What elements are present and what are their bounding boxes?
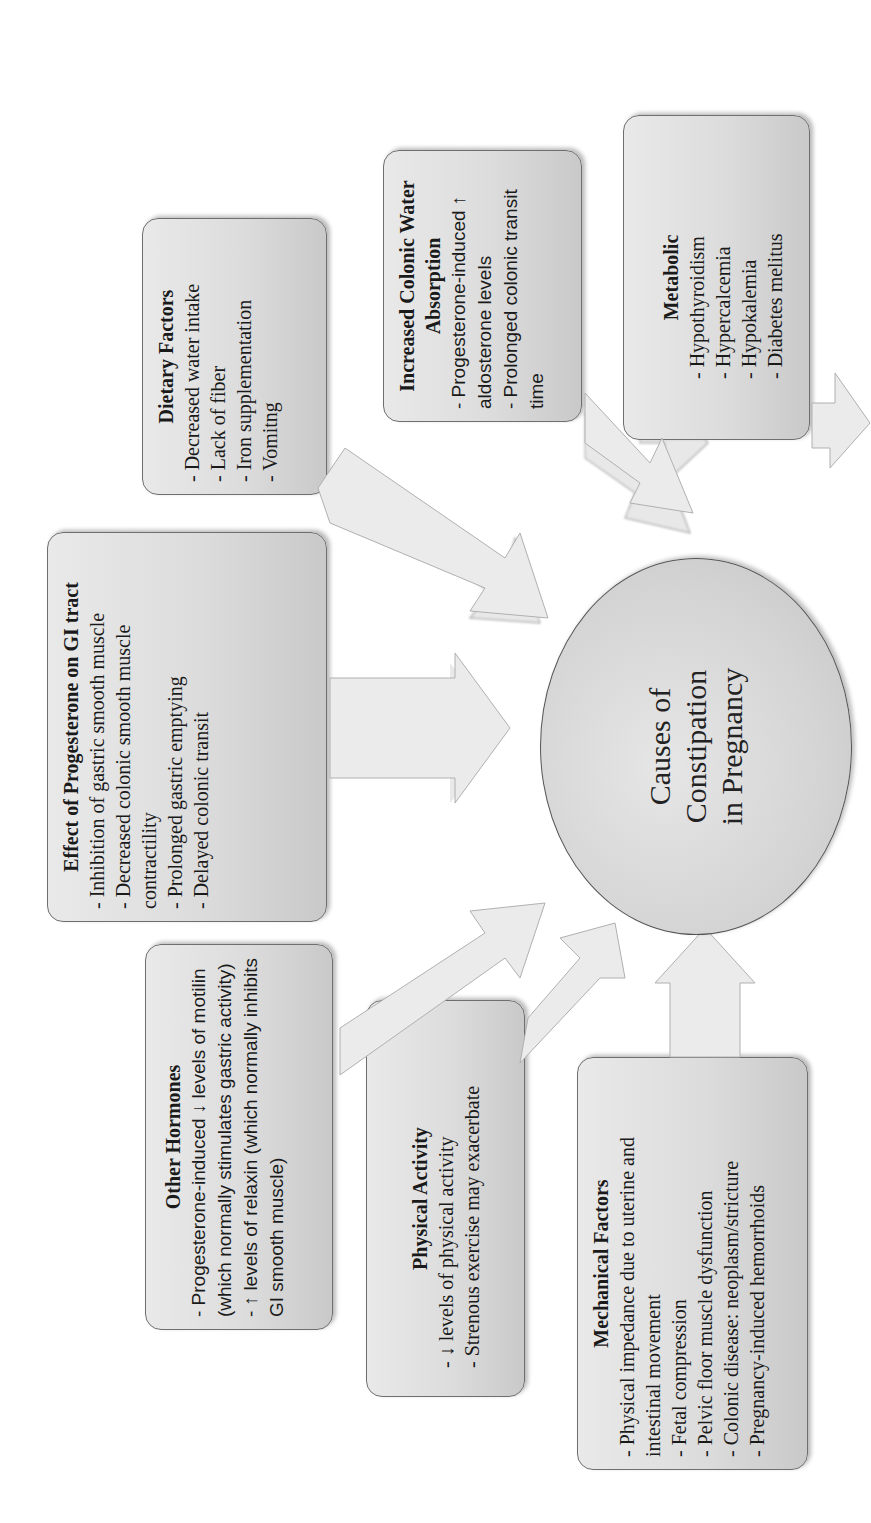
list-item: - Prolonged colonic transit time — [498, 163, 550, 409]
box-title: Effect of Progesterone on GI tract — [58, 545, 84, 909]
box-metabolic: Metabolic - Hypothyroidism - Hypercalcem… — [623, 115, 810, 440]
list-item: - Hypercalcemia — [710, 128, 736, 379]
list-item: - Colonic disease: neoplasm/stricture — [718, 1070, 744, 1457]
list-item: - Fetal compression — [666, 1070, 692, 1457]
box-title: Physical Activity — [407, 1013, 433, 1384]
center-line: Constipation — [678, 668, 714, 825]
list-item: - Delayed colonic transit — [188, 545, 214, 909]
list-item: - Vomitng — [257, 231, 283, 482]
diagram-canvas: Effect of Progesterone on GI tract - Inh… — [0, 0, 871, 1523]
center-line: Causes of — [642, 668, 678, 825]
box-title: Other Hormones — [160, 957, 186, 1317]
list-item: - Progesterone-induced ↓ levels of motil… — [186, 957, 238, 1317]
list-item: - ↓ levels of physical activity — [433, 1013, 459, 1368]
list-item: - Pelvic floor muscle dysfunction — [692, 1070, 718, 1457]
list-item: - Prolonged gastric emptying — [162, 545, 188, 909]
list-item: - ↑ levels of relaxin (which normally in… — [238, 957, 290, 1317]
box-physical-activity: Physical Activity - ↓ levels of physical… — [366, 1000, 525, 1397]
center-line: in Pregnancy — [714, 668, 750, 825]
box-title: Increased Colonic Water Absorption — [394, 163, 446, 409]
box-progesterone: Effect of Progesterone on GI tract - Inh… — [47, 532, 327, 922]
list-item: - Hypothyroidism — [684, 128, 710, 379]
list-item: - Strenous exercise may exacerbate — [459, 1013, 485, 1368]
center-label: Causes of Constipation in Pregnancy — [642, 668, 750, 825]
box-other-hormones: Other Hormones - Progesterone-induced ↓ … — [145, 944, 333, 1330]
list-item: - Inhibition of gastric smooth muscle — [84, 545, 110, 909]
list-item: - Hypokalemia — [736, 128, 762, 379]
box-colonic-water-absorption: Increased Colonic Water Absorption - Pro… — [383, 150, 582, 422]
box-title: Mechanical Factors — [588, 1070, 614, 1457]
center-ellipse: Causes of Constipation in Pregnancy — [540, 558, 852, 935]
list-item: - Decreased colonic smooth muscle contra… — [110, 545, 162, 909]
arrow-progesterone-to-center — [330, 663, 505, 803]
list-item: - Diabetes melitus — [762, 128, 788, 379]
list-item: - Progesterone-induced ↑ aldosterone lev… — [446, 163, 498, 409]
list-item: - Iron supplementation — [231, 231, 257, 482]
box-title: Metabolic — [658, 128, 684, 427]
box-dietary: Dietary Factors - Decreased water intake… — [142, 218, 327, 495]
list-item: - Pregnancy-induced hemorrhoids — [744, 1070, 770, 1457]
list-item: - Physical impedance due to uterine and … — [614, 1070, 666, 1457]
list-item: - Lack of fiber — [205, 231, 231, 482]
list-item: - Decreased water intake — [179, 231, 205, 482]
box-mechanical-factors: Mechanical Factors - Physical impedance … — [577, 1057, 808, 1470]
box-title: Dietary Factors — [153, 231, 179, 482]
